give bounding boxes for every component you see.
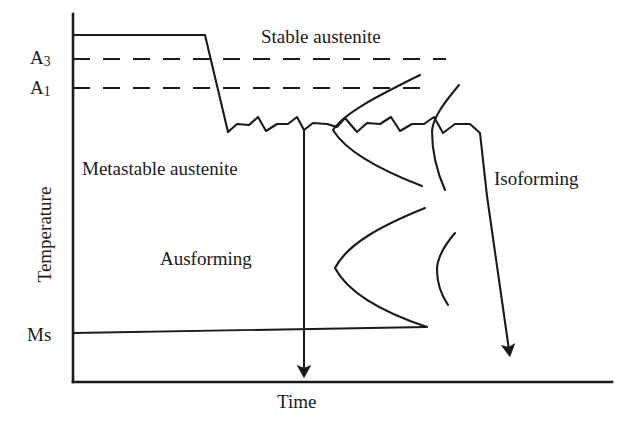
region-label-ausforming: Ausforming: [160, 249, 252, 268]
y-tick-label-a3-sub: 3: [44, 54, 51, 69]
ttt-upper-c-curve-finish: [432, 85, 459, 190]
x-axis-title: Time: [277, 392, 316, 411]
y-axis-title: Temperature: [35, 155, 54, 315]
y-tick-label-a3-main: A: [30, 47, 44, 68]
y-tick-label-a3: A3: [30, 48, 51, 69]
y-tick-label-a1: A1: [30, 78, 51, 99]
region-label-isoforming: Isoforming: [494, 169, 578, 188]
diagram-canvas: [0, 0, 631, 422]
ttt-diagram: A3 A1 Ms Stable austenite Metastable aus…: [0, 0, 631, 422]
y-tick-label-a1-main: A: [30, 77, 44, 98]
isoforming-quench-arrow: [480, 133, 509, 350]
region-label-stable-austenite: Stable austenite: [261, 27, 381, 46]
ttt-lower-c-curve-finish: [437, 233, 455, 305]
ms-reference-line: [73, 327, 427, 333]
region-label-metastable-austenite: Metastable austenite: [82, 159, 238, 178]
y-tick-label-ms: Ms: [27, 325, 51, 344]
austenitizing-hold-curve: [73, 35, 228, 132]
ttt-upper-c-curve: [333, 75, 422, 186]
isoforming-zigzag-curve: [304, 117, 480, 133]
y-tick-label-a1-sub: 1: [44, 84, 51, 99]
ttt-lower-c-curve: [335, 208, 427, 327]
ausforming-zigzag-curve: [228, 117, 304, 132]
